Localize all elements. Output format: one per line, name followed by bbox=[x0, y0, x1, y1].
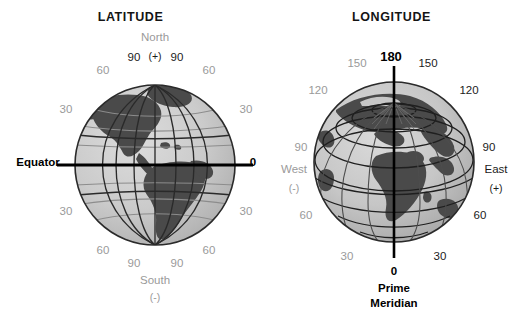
graticule-label-longitude-15: 0 bbox=[391, 266, 397, 278]
graticule-label-longitude-1: 150 bbox=[347, 58, 366, 70]
graticule-label-latitude-5: 60 bbox=[203, 65, 216, 77]
graticule-label-longitude-7: West bbox=[281, 164, 307, 176]
globe-latitude bbox=[55, 65, 255, 265]
graticule-label-longitude-2: 150 bbox=[418, 58, 437, 70]
graticule-label-longitude-6: 90 bbox=[483, 142, 496, 154]
graticule-label-latitude-7: 30 bbox=[240, 104, 253, 116]
graticule-label-latitude-1: (+) bbox=[148, 51, 161, 62]
graticule-label-longitude-17: Meridian bbox=[370, 298, 417, 310]
graticule-label-longitude-5: 90 bbox=[295, 142, 308, 154]
graticule-label-latitude-3: 90 bbox=[171, 52, 184, 64]
graticule-label-longitude-11: 60 bbox=[300, 210, 313, 222]
graticule-label-latitude-17: (-) bbox=[150, 292, 161, 303]
graticule-label-longitude-16: Prime bbox=[378, 283, 410, 295]
graticule-label-longitude-14: 30 bbox=[434, 251, 447, 263]
graticule-label-latitude-11: 30 bbox=[240, 206, 253, 218]
graticule-label-latitude-16: South bbox=[140, 275, 170, 287]
graticule-label-latitude-14: 90 bbox=[128, 258, 141, 270]
graticule-label-longitude-3: 120 bbox=[308, 85, 327, 97]
graticule-label-latitude-13: 60 bbox=[203, 245, 216, 257]
graticule-label-longitude-9: (-) bbox=[289, 183, 300, 194]
graticule-label-longitude-12: 60 bbox=[474, 210, 487, 222]
graticule-label-latitude-4: 60 bbox=[97, 65, 110, 77]
graticule-label-longitude-10: (+) bbox=[489, 183, 502, 194]
graticule-label-latitude-9: 0 bbox=[250, 157, 256, 169]
graticule-label-latitude-0: North bbox=[141, 32, 169, 44]
graticule-label-longitude-4: 120 bbox=[459, 85, 478, 97]
graticule-label-longitude-0: 180 bbox=[380, 50, 402, 63]
panel-title-longitude: LONGITUDE bbox=[261, 10, 522, 24]
panel-title-latitude: LATITUDE bbox=[0, 10, 261, 24]
graticule-label-longitude-13: 30 bbox=[341, 251, 354, 263]
graticule-label-latitude-10: 30 bbox=[60, 206, 73, 218]
graticule-label-latitude-8: Equator bbox=[16, 157, 59, 169]
diagram-canvas: LATITUDE LONGITUDE bbox=[0, 0, 522, 315]
graticule-label-latitude-15: 90 bbox=[171, 258, 184, 270]
graticule-label-longitude-8: East bbox=[484, 164, 507, 176]
graticule-label-latitude-6: 30 bbox=[60, 104, 73, 116]
graticule-label-latitude-12: 60 bbox=[97, 245, 110, 257]
graticule-label-latitude-2: 90 bbox=[128, 52, 141, 64]
